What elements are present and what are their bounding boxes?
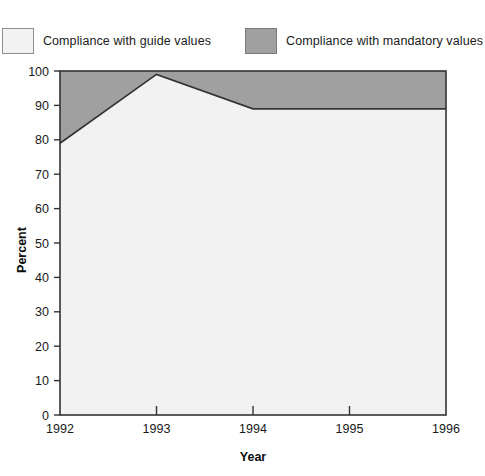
y-axis: 0102030405060708090100 bbox=[28, 65, 60, 423]
y-tick-label: 70 bbox=[35, 168, 49, 182]
x-axis-title: Year bbox=[240, 450, 267, 464]
y-tick-label: 30 bbox=[35, 305, 49, 319]
y-tick-label: 20 bbox=[35, 340, 49, 354]
area-chart: Compliance with guide values Compliance … bbox=[0, 0, 485, 476]
series-area-guide bbox=[60, 74, 446, 415]
x-tick-label: 1992 bbox=[46, 422, 74, 436]
x-tick-label: 1993 bbox=[143, 422, 171, 436]
y-tick-label: 90 bbox=[35, 99, 49, 113]
y-tick-label: 80 bbox=[35, 133, 49, 147]
y-tick-label: 100 bbox=[28, 65, 49, 79]
y-tick-label: 60 bbox=[35, 202, 49, 216]
chart-svg: 0102030405060708090100 19921993199419951… bbox=[0, 0, 485, 476]
x-tick-label: 1996 bbox=[432, 422, 460, 436]
y-axis-title: Percent bbox=[15, 226, 29, 273]
plot-area: 0102030405060708090100 19921993199419951… bbox=[0, 0, 485, 476]
x-tick-label: 1994 bbox=[239, 422, 267, 436]
y-tick-label: 50 bbox=[35, 237, 49, 251]
y-tick-label: 10 bbox=[35, 374, 49, 388]
y-tick-label: 40 bbox=[35, 271, 49, 285]
y-tick-label: 0 bbox=[42, 409, 49, 423]
x-tick-label: 1995 bbox=[336, 422, 364, 436]
